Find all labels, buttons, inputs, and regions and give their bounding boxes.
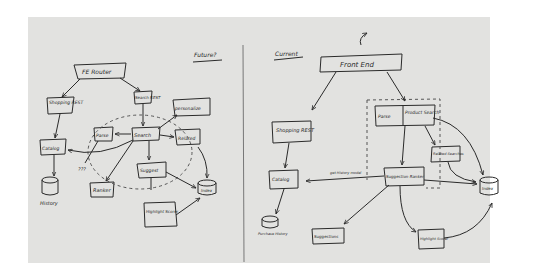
svg-text:Index: Index xyxy=(201,188,213,193)
svg-text:Highlight Scorer: Highlight Scorer xyxy=(146,209,179,214)
svg-text:Ranker: Ranker xyxy=(93,187,112,193)
svg-text:Parse: Parse xyxy=(378,114,391,119)
svg-text:Catalog: Catalog xyxy=(272,177,289,182)
db-purchase-history xyxy=(262,216,278,222)
db-history xyxy=(42,177,58,183)
svg-text:get History model: get History model xyxy=(330,171,361,175)
label-fe-router: FE Router xyxy=(82,68,112,75)
svg-text:Index: Index xyxy=(482,186,494,191)
svg-text:personalize: personalize xyxy=(174,106,201,111)
architecture-diagram: Future? FE Router Shopping REST Search R… xyxy=(0,0,543,278)
current-title-underline xyxy=(274,57,303,60)
svg-text:Search REST: Search REST xyxy=(135,95,161,100)
svg-text:Catalog: Catalog xyxy=(42,146,59,151)
svg-text:Highlight Scorer: Highlight Scorer xyxy=(420,237,449,241)
current-title: Current xyxy=(275,50,298,57)
svg-text:Related Searches: Related Searches xyxy=(433,152,464,156)
svg-text:Suggestion Ranker: Suggestion Ranker xyxy=(386,174,424,179)
svg-text:Suggest: Suggest xyxy=(140,168,159,173)
future-title-underline xyxy=(193,60,222,62)
svg-text:Related: Related xyxy=(178,136,195,141)
db-index-current xyxy=(480,177,498,183)
future-title: Future? xyxy=(194,51,217,58)
svg-text:???: ??? xyxy=(78,166,86,172)
db-index-future xyxy=(198,180,216,186)
svg-text:Shopping REST: Shopping REST xyxy=(49,100,84,105)
svg-text:Purchase History: Purchase History xyxy=(258,232,289,236)
svg-text:History: History xyxy=(40,200,59,207)
svg-text:Product Search: Product Search xyxy=(405,110,439,115)
svg-text:Search: Search xyxy=(134,132,151,138)
svg-text:Suggestions: Suggestions xyxy=(314,234,338,239)
svg-text:Shopping REST: Shopping REST xyxy=(276,127,315,134)
svg-text:Parse: Parse xyxy=(96,133,109,138)
section-divider xyxy=(243,45,244,262)
node-highlight-scorer xyxy=(144,202,177,227)
svg-text:Front End: Front End xyxy=(340,61,374,69)
